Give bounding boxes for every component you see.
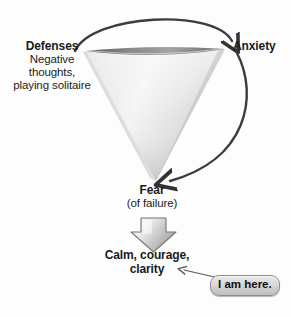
node-fear: Fear (of failure) — [107, 184, 197, 210]
defenses-detail-line-1: Negative — [0, 53, 104, 66]
callout-i-am-here: I am here. — [210, 275, 280, 296]
defenses-heading: Defenses — [0, 40, 104, 53]
fear-detail: (of failure) — [107, 197, 197, 210]
fear-heading: Fear — [107, 184, 197, 197]
diagram-canvas: Defenses Negative thoughts, playing soli… — [0, 0, 291, 317]
defenses-detail-line-3: playing solitaire — [0, 79, 104, 92]
down-block-arrow — [131, 218, 176, 252]
defenses-detail-line-2: thoughts, — [0, 66, 104, 79]
node-anxiety: Anxiety — [233, 40, 276, 53]
node-defenses: Defenses Negative thoughts, playing soli… — [0, 40, 104, 92]
node-outcome: Calm, courage, clarity — [92, 248, 202, 277]
outcome-line-1: Calm, courage, — [92, 248, 202, 262]
funnel-shape — [83, 47, 225, 181]
outcome-line-2: clarity — [92, 262, 202, 276]
